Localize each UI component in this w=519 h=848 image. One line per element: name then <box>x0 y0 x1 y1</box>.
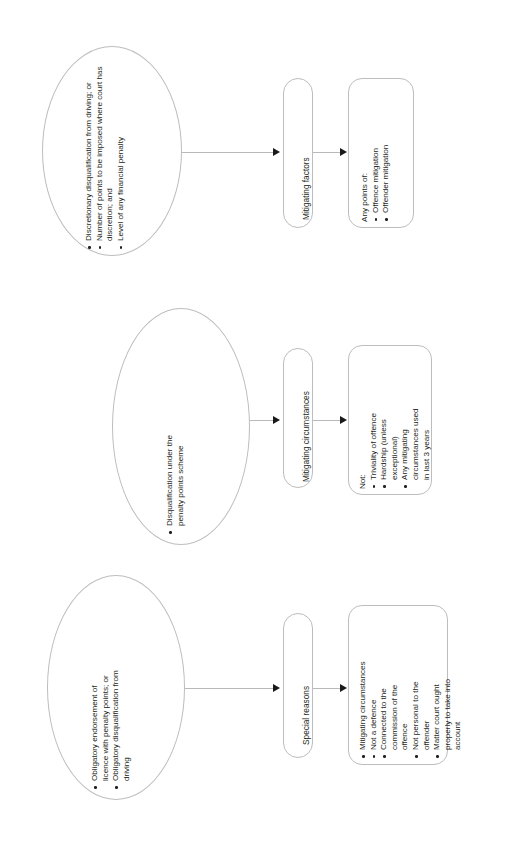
list-item: Hardship (unless exceptional) <box>379 408 400 489</box>
list-item: Not personal to the offender <box>411 678 432 759</box>
list-item: Disqualification under the penalty point… <box>165 420 186 535</box>
row-3-source-bullets: Obligatory endorsement of licence with p… <box>90 604 132 790</box>
list-item: Obligatory endorsement of licence with p… <box>90 661 111 790</box>
row-3-connector-2 <box>313 688 343 689</box>
row-1-detail-lead: Any points of: <box>360 82 371 222</box>
list-item: Number of points to be imposed where cou… <box>95 54 116 250</box>
row-2-detail-lead: Not: <box>358 347 369 489</box>
row-2-arrowhead-1 <box>273 416 280 424</box>
list-item: Triviality of offence <box>369 347 380 489</box>
list-item: Matter court ought properly to take into… <box>432 678 464 759</box>
row-1-arrowhead-2 <box>340 148 347 156</box>
row-3-detail-text: Mitigating circumstances Not a defence C… <box>358 609 464 759</box>
list-item: Offence mitigation <box>371 82 382 222</box>
row-2-arrowhead-2 <box>340 416 347 424</box>
diagram-canvas: Discretionary disqualification from driv… <box>0 0 519 848</box>
flow-row-2: Disqualification under the penalty point… <box>0 283 519 566</box>
row-2-source-bullets: Disqualification under the penalty point… <box>165 355 186 535</box>
row-3-connector-1 <box>185 688 278 689</box>
row-2-detail-bullets: Triviality of offence Hardship (unless e… <box>369 347 433 489</box>
list-item: Connected to the commission of the offen… <box>379 678 411 759</box>
row-2-source-text: Disqualification under the penalty point… <box>165 355 186 535</box>
row-3-detail-bullets: Mitigating circumstances Not a defence C… <box>358 609 464 759</box>
row-1-stage-label: Mitigating factors <box>301 157 311 220</box>
list-item: Discretionary disqualification from driv… <box>84 54 95 250</box>
row-1-connector-2 <box>313 152 343 153</box>
list-item: Any mitigating circumstances used in las… <box>400 400 432 489</box>
row-3-source-text: Obligatory endorsement of licence with p… <box>90 604 132 790</box>
list-item: Offender mitigation <box>381 82 392 222</box>
row-1-arrowhead-1 <box>273 148 280 156</box>
row-3-stage-label: Special reasons <box>301 686 311 745</box>
list-item: Obligatory disqualification from driving <box>111 661 132 790</box>
row-2-connector-2 <box>313 420 343 421</box>
row-2-stage-label: Mitigating circumstances <box>301 391 311 482</box>
flow-row-1: Discretionary disqualification from driv… <box>0 0 519 283</box>
row-1-source-bullets: Discretionary disqualification from driv… <box>84 54 126 250</box>
row-1-detail-bullets: Offence mitigation Offender mitigation <box>371 82 392 222</box>
row-2-detail-text: Not: Triviality of offence Hardship (unl… <box>358 347 432 489</box>
row-1-connector-1 <box>182 152 278 153</box>
list-item: Level of any financial penalty <box>116 54 127 250</box>
row-1-source-text: Discretionary disqualification from driv… <box>84 54 126 250</box>
flow-row-3: Obligatory endorsement of licence with p… <box>0 565 519 848</box>
row-3-arrowhead-1 <box>273 684 280 692</box>
row-3-arrowhead-2 <box>340 684 347 692</box>
list-item: Mitigating circumstances <box>358 609 369 759</box>
row-1-detail-text: Any points of: Offence mitigation Offend… <box>360 82 392 222</box>
list-item: Not a defence <box>369 609 380 759</box>
